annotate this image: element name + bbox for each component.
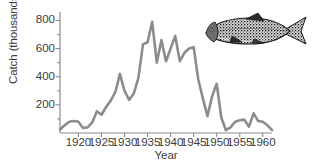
x-tick-label-1935: 1935 <box>135 136 161 148</box>
figure-container: Catch (thousands of tons) 800 600 400 20… <box>0 0 323 168</box>
x-tick-label-1920: 1920 <box>66 136 92 148</box>
x-tick-label-1960: 1960 <box>250 136 276 148</box>
x-tick-label-1955: 1955 <box>227 136 253 148</box>
x-tick-label-1930: 1930 <box>112 136 138 148</box>
x-tick-label-1950: 1950 <box>204 136 230 148</box>
x-axis-label: Year <box>60 149 272 161</box>
x-tick-label-1940: 1940 <box>158 136 184 148</box>
sardine-fish-illustration-icon <box>202 12 310 52</box>
fish-svg <box>202 12 310 52</box>
x-tick-label-1925: 1925 <box>89 136 115 148</box>
x-tick-label-1945: 1945 <box>181 136 207 148</box>
